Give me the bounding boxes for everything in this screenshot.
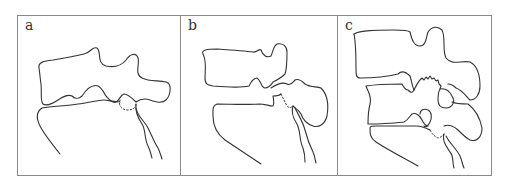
middle-vertebra-outline — [366, 84, 428, 126]
top-vertebra-outline — [354, 27, 480, 100]
vertebra-drawing-c — [338, 16, 493, 177]
top-vertebra-body — [354, 34, 414, 90]
panel-a: a — [17, 15, 181, 176]
panel-c: c — [337, 15, 492, 176]
nerve-root-1 — [443, 134, 454, 168]
herniation-dotted — [119, 100, 136, 110]
nerve-root-2 — [446, 136, 464, 168]
nerve-root-2 — [295, 108, 316, 163]
herniation-dotted — [281, 94, 293, 108]
panel-b: b — [180, 15, 338, 176]
middle-facet-outline — [438, 89, 454, 108]
herniation-dotted — [430, 130, 444, 138]
posterior-element-outline — [271, 79, 328, 126]
spine-diagram-figure: a b c — [17, 15, 492, 176]
sacrum-outline — [37, 100, 120, 154]
sacrum-outline — [370, 126, 430, 166]
lower-facet-outline — [420, 109, 431, 127]
nerve-root-2 — [136, 108, 162, 159]
upper-vertebra-outline — [203, 44, 287, 88]
lower-vertebra-outline — [213, 94, 281, 164]
vertebra-outline — [39, 48, 170, 105]
vertebra-drawing-a — [18, 16, 182, 177]
vertebra-drawing-b — [181, 16, 339, 177]
osteophyte-jagged — [414, 76, 441, 90]
